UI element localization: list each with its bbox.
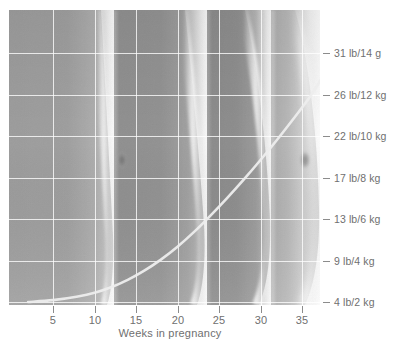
x-tick-mark — [302, 306, 303, 313]
pregnancy-weight-gain-chart: 5 10 15 20 25 30 35 Weeks in pregnancy 3… — [0, 0, 399, 348]
y-tick-mark — [323, 219, 330, 220]
x-tick-label: 35 — [287, 314, 317, 326]
y-tick-label: 13 lb/6 kg — [334, 213, 381, 225]
x-tick-label: 5 — [38, 314, 68, 326]
y-tick-label: 31 lb/14 g — [334, 47, 381, 59]
y-tick-label: 26 lb/12 kg — [334, 89, 386, 101]
y-tick-label: 9 lb/4 kg — [334, 255, 375, 267]
x-axis-title: Weeks in pregnancy — [75, 327, 265, 339]
x-tick-label: 10 — [80, 314, 110, 326]
x-tick-label: 30 — [246, 314, 276, 326]
x-tick-mark — [95, 306, 96, 313]
y-tick-mark — [323, 302, 330, 303]
x-tick-mark — [136, 306, 137, 313]
y-tick-mark — [323, 136, 330, 137]
x-tick-label: 25 — [204, 314, 234, 326]
y-tick-label: 4 lb/2 kg — [334, 296, 375, 308]
x-tick-label: 20 — [163, 314, 193, 326]
x-tick-label: 15 — [121, 314, 151, 326]
x-tick-mark — [219, 306, 220, 313]
y-tick-mark — [323, 261, 330, 262]
x-tick-mark — [178, 306, 179, 313]
x-tick-mark — [53, 306, 54, 313]
y-tick-label: 17 lb/8 kg — [334, 172, 381, 184]
y-tick-mark — [323, 53, 330, 54]
y-tick-mark — [323, 95, 330, 96]
belly-profile-photomontage — [9, 10, 320, 305]
y-tick-mark — [323, 178, 330, 179]
y-tick-label: 22 lb/10 kg — [334, 130, 386, 142]
x-tick-mark — [261, 306, 262, 313]
plot-area — [9, 10, 320, 305]
